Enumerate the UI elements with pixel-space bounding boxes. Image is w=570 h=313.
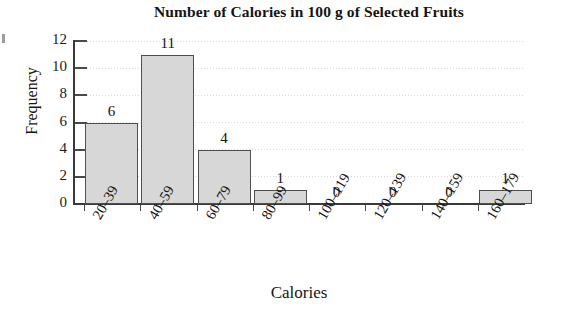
bar-value-label: 4: [198, 130, 251, 147]
plot-area: 024681012 611410001 20–3940–5960–7980–99…: [0, 0, 570, 313]
y-axis-tick: [75, 67, 87, 69]
x-axis-tick: [309, 205, 310, 211]
y-axis-tick: [75, 40, 87, 42]
y-axis-tick-label: 0: [27, 194, 67, 211]
y-axis-tick-label: 2: [27, 167, 67, 184]
y-axis-title: Frequency: [23, 41, 41, 161]
x-axis-title: Calories: [73, 283, 525, 303]
x-axis-tick: [365, 205, 366, 211]
x-axis-tick: [84, 205, 85, 211]
x-axis-tick: [253, 205, 254, 211]
x-axis-tick: [140, 205, 141, 211]
chart-screenshot: Number of Calories in 100 g of Selected …: [0, 0, 570, 313]
bar-value-label: 11: [141, 35, 194, 52]
x-axis-tick: [197, 205, 198, 211]
bar: [141, 55, 194, 204]
bar-value-label: 6: [85, 103, 138, 120]
x-axis-tick: [422, 205, 423, 211]
x-axis-tick: [478, 205, 479, 211]
y-axis-tick: [75, 94, 87, 96]
